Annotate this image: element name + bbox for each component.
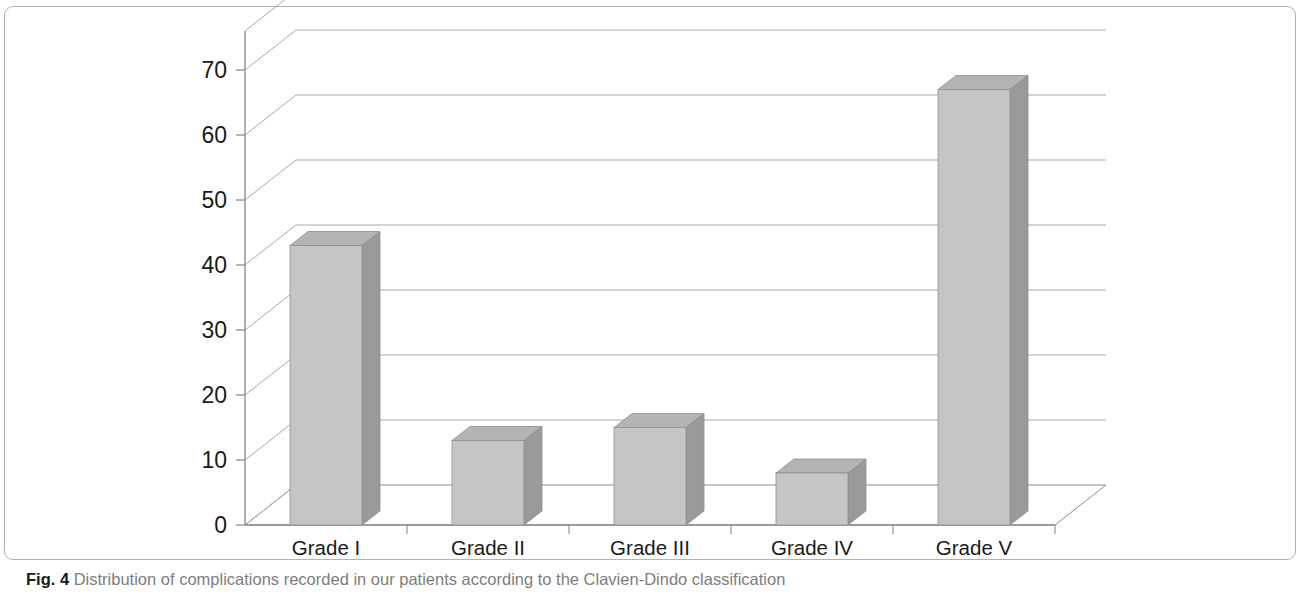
figure-container: 010203040506070Grade IGrade IIGrade IIIG… <box>0 0 1306 599</box>
x-axis-category-label: Grade II <box>451 536 525 559</box>
caption-figure-number: Fig. 4 <box>26 570 69 588</box>
bar-front-face <box>938 90 1010 526</box>
bar-front-face <box>290 246 362 526</box>
x-axis-category-label: Grade I <box>292 536 360 559</box>
bar-side-face <box>362 232 380 526</box>
y-axis-tick-label: 10 <box>201 447 227 473</box>
gridline-depth-segment <box>245 355 296 395</box>
gridline-depth-segment <box>245 30 296 70</box>
figure-caption: Fig. 4 Distribution of complications rec… <box>0 563 1306 599</box>
wall-top-depth-segment <box>245 0 296 31</box>
bar-grade-i[interactable] <box>290 232 380 526</box>
bar-chart-svg: 010203040506070Grade IGrade IIGrade IIIG… <box>0 0 1306 560</box>
chart-plot-area: 010203040506070Grade IGrade IIGrade IIIG… <box>0 0 1306 560</box>
bar-front-face <box>776 473 848 525</box>
gridline-depth-segment <box>245 290 296 330</box>
gridline-group <box>245 30 1106 70</box>
x-axis-category-label: Grade V <box>936 536 1013 559</box>
bar-side-face <box>686 414 704 526</box>
bar-grade-v[interactable] <box>938 76 1028 526</box>
y-axis-tick-label: 0 <box>214 512 227 538</box>
y-axis-tick-label: 20 <box>201 382 227 408</box>
y-axis-tick-label: 60 <box>201 122 227 148</box>
gridline-depth-segment <box>245 160 296 200</box>
y-axis-tick-label: 30 <box>201 317 227 343</box>
bar-front-face <box>452 441 524 526</box>
x-axis-category-label: Grade IV <box>771 536 853 559</box>
bar-grade-iii[interactable] <box>614 414 704 526</box>
caption-body-text: Distribution of complications recorded i… <box>69 570 785 588</box>
bar-grade-iv[interactable] <box>776 459 866 525</box>
bar-grade-ii[interactable] <box>452 427 542 526</box>
bar-side-face <box>1010 76 1028 526</box>
gridline-depth-segment <box>245 420 296 460</box>
y-axis-tick-label: 40 <box>201 252 227 278</box>
gridline-depth-segment <box>245 95 296 135</box>
caption-line: Fig. 4 Distribution of complications rec… <box>26 569 1306 589</box>
gridline-depth-segment <box>245 225 296 265</box>
bar-front-face <box>614 428 686 526</box>
y-axis-tick-label: 50 <box>201 187 227 213</box>
x-axis-category-label: Grade III <box>610 536 690 559</box>
bar-side-face <box>524 427 542 526</box>
y-axis-tick-label: 70 <box>201 57 227 83</box>
